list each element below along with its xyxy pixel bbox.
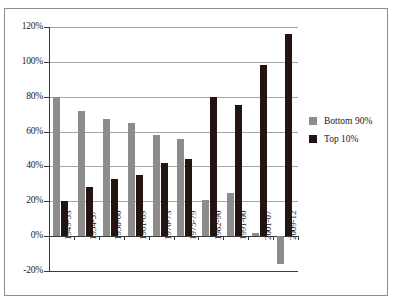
x-tick-mark <box>124 236 125 240</box>
y-axis-tick: 40% <box>0 161 43 171</box>
x-tick-mark <box>99 236 100 240</box>
chart-root: -20%0%20%40%60%80%100%120% 1949-531954-5… <box>0 0 394 305</box>
x-tick-mark <box>149 236 150 240</box>
y-axis-tick-label: -20% <box>3 266 43 276</box>
x-axis-category-label: 1991-00 <box>239 211 248 240</box>
y-axis-tick-label: 60% <box>3 127 43 137</box>
x-axis-category-label: 1961-69 <box>139 211 148 240</box>
x-axis-category-label: 1970-73 <box>164 211 173 240</box>
y-axis-tick-label: 120% <box>3 22 43 32</box>
y-axis-tick: 120% <box>0 22 43 32</box>
legend-label-bottom90: Bottom 90% <box>324 116 372 126</box>
bar-bottom90[interactable] <box>128 123 135 236</box>
x-tick-mark <box>273 236 274 240</box>
y-axis-tick: -20% <box>0 266 43 276</box>
bar-bottom90[interactable] <box>177 139 184 236</box>
y-axis-tick: 0% <box>0 231 43 241</box>
y-axis-tick: 100% <box>0 57 43 67</box>
bar-bottom90[interactable] <box>277 236 284 264</box>
y-axis-tick: 80% <box>0 92 43 102</box>
bar-bottom90[interactable] <box>202 200 209 236</box>
x-tick-mark <box>248 236 249 240</box>
x-tick-mark <box>223 236 224 240</box>
x-axis-category-label: 1958-60 <box>114 211 123 240</box>
legend-swatch-bottom90 <box>309 117 317 125</box>
y-axis-tick-label: 40% <box>3 161 43 171</box>
legend-item-top10[interactable]: Top 10% <box>309 130 389 148</box>
x-tick-mark <box>174 236 175 240</box>
bar-bottom90[interactable] <box>153 135 160 236</box>
y-axis-tick: 60% <box>0 127 43 137</box>
bars-layer <box>49 0 298 305</box>
x-axis-category-label: 1954-57 <box>89 211 98 240</box>
y-axis-tick-label: 100% <box>3 57 43 67</box>
x-axis-category-label: 1949-53 <box>64 211 73 240</box>
bar-bottom90[interactable] <box>103 119 110 236</box>
legend-swatch-top10 <box>309 135 317 143</box>
bar-bottom90[interactable] <box>53 97 60 236</box>
bar-top10[interactable] <box>285 34 292 236</box>
bar-bottom90[interactable] <box>252 233 259 236</box>
y-axis-tick-label: 20% <box>3 196 43 206</box>
x-axis-category-label: 2009-12 <box>289 211 298 240</box>
x-axis-category-label: 1975-79 <box>189 211 198 240</box>
y-axis-tick: 20% <box>0 196 43 206</box>
legend-item-bottom90[interactable]: Bottom 90% <box>309 112 389 130</box>
chart-legend: Bottom 90% Top 10% <box>309 112 389 148</box>
legend-label-top10: Top 10% <box>324 134 358 144</box>
x-tick-mark <box>74 236 75 240</box>
x-tick-mark <box>198 236 199 240</box>
x-axis-category-label: 2001-07 <box>264 211 273 240</box>
y-axis-tick-label: 80% <box>3 92 43 102</box>
bar-bottom90[interactable] <box>78 111 85 236</box>
x-tick-mark <box>298 236 299 240</box>
bar-bottom90[interactable] <box>227 193 234 236</box>
y-axis-tick-label: 0% <box>3 231 43 241</box>
x-axis-category-label: 1982-90 <box>214 211 223 240</box>
